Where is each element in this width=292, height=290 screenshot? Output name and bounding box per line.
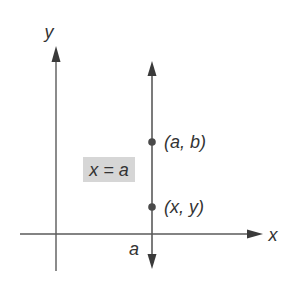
- coordinate-diagram: y x a x = a (a, b) (x, y): [0, 0, 292, 290]
- point-x-y: (x, y): [148, 197, 204, 217]
- point-a-b: (a, b): [148, 132, 206, 152]
- equation-label-text: x = a: [88, 160, 129, 180]
- point-x-y-label: (x, y): [164, 197, 204, 217]
- vertical-line-up-arrow-icon: [148, 61, 157, 76]
- x-intercept-label: a: [129, 239, 139, 259]
- point-a-b-dot: [148, 138, 156, 146]
- point-x-y-dot: [148, 203, 156, 211]
- x-axis-label: x: [268, 225, 279, 245]
- point-a-b-label: (a, b): [164, 132, 206, 152]
- y-axis-label: y: [43, 22, 55, 42]
- x-axis-arrow-icon: [247, 230, 263, 239]
- y-axis-arrow-icon: [52, 46, 61, 62]
- equation-label: x = a: [83, 157, 135, 182]
- vertical-line-down-arrow-icon: [148, 254, 157, 269]
- x-axis: x: [20, 225, 279, 245]
